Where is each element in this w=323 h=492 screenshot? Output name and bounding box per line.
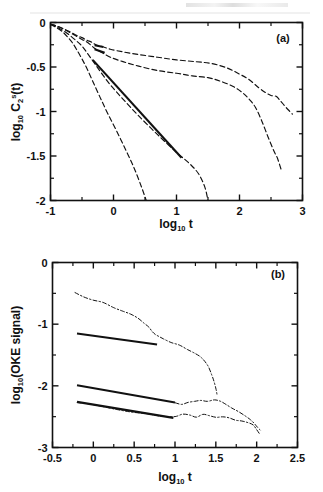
y-tick-label: -2 [38, 380, 48, 392]
y-tick-label: -0.5 [27, 61, 46, 73]
panel-a-data-curves [51, 24, 293, 200]
panel-a-y-tick-labels: -2-1.5-1-0.50 [27, 17, 46, 207]
y-tick-label: -1.5 [27, 150, 46, 162]
y-tick-label: -1 [38, 318, 48, 330]
data-curve-oke-data-middle-branch [175, 400, 260, 430]
x-tick-label: 1 [172, 452, 178, 464]
panel-a: -10123 -2-1.5-1-0.50 (a) log10 t log10 C… [0, 0, 323, 240]
panel-a-ylab-sub: 10 [16, 115, 25, 123]
x-tick-label: 1 [173, 205, 179, 217]
panel-b-tick-marks [53, 263, 298, 448]
panel-a-tick-marks [51, 23, 303, 201]
x-tick-label: -1 [46, 205, 56, 217]
y-tick-label: -1 [36, 106, 46, 118]
panel-b-xlab-sub: 10 [176, 477, 184, 486]
panel-a-axes-frame [51, 23, 303, 201]
panel-a-ylab-tail2: (t) [9, 83, 23, 95]
fit-line-curve-1-slowest [95, 45, 104, 47]
x-tick-label: 0 [90, 452, 96, 464]
panel-b-y-axis-label: log10(OKE signal) [9, 306, 25, 404]
panel-b-ylab-sub: 10 [16, 378, 25, 386]
x-tick-label: 0.5 [127, 452, 142, 464]
fit-line-oke-data-upper [77, 333, 157, 344]
fit-line-oke-data-middle-branch [77, 385, 175, 402]
panel-b-ylab-tail: (OKE signal) [9, 306, 23, 378]
panel-b-plot: -0.500.511.522.5 -3-2-10 (b) log10 t log… [0, 240, 323, 492]
x-tick-label: 2.5 [290, 452, 305, 464]
panel-b-ylab-main: log [9, 386, 23, 404]
fit-line-curve-2 [95, 49, 105, 53]
y-tick-label: 0 [39, 17, 45, 29]
panel-a-ylab-tail: C [9, 103, 23, 115]
fit-line-curve-3 [93, 60, 182, 158]
panel-b-axes-frame [53, 263, 298, 448]
x-tick-label: 3 [299, 205, 305, 217]
x-tick-label: 1.5 [208, 452, 223, 464]
y-tick-label: 0 [41, 257, 47, 269]
data-curve-curve-3 [51, 24, 209, 200]
panel-a-xlab-tail: t [186, 217, 193, 231]
panel-b-y-tick-labels: -3-2-10 [38, 257, 48, 454]
panel-b-xlab-tail: t [185, 470, 192, 484]
figure-canvas: -10123 -2-1.5-1-0.50 (a) log10 t log10 C… [0, 0, 323, 492]
panel-a-label: (a) [276, 32, 290, 44]
panel-b-x-tick-labels: -0.500.511.522.5 [43, 452, 305, 464]
panel-a-x-axis-label: log10 t [159, 217, 193, 233]
panel-a-xlab-sub: 10 [177, 224, 185, 233]
x-tick-label: 2 [254, 452, 260, 464]
panel-b-x-axis-label: log10 t [158, 470, 192, 486]
x-tick-label: 0 [110, 205, 116, 217]
y-tick-label: -2 [36, 195, 46, 207]
fit-line-oke-data-lower [77, 402, 173, 418]
panel-b-label: (b) [271, 268, 285, 280]
panel-b-data-curves [75, 293, 260, 434]
panel-a-xlab-main: log [159, 217, 177, 231]
panel-a-ylab-main: log [9, 123, 23, 141]
panel-b-xlab-main: log [158, 470, 176, 484]
panel-a-y-axis-label: log10 C2s(t) [9, 83, 25, 142]
x-tick-label: 2 [236, 205, 242, 217]
panel-a-x-tick-labels: -10123 [46, 205, 306, 217]
panel-b: -0.500.511.522.5 -3-2-10 (b) log10 t log… [0, 240, 323, 492]
y-tick-label: -3 [38, 442, 48, 454]
panel-a-plot: -10123 -2-1.5-1-0.50 (a) log10 t log10 C… [0, 0, 323, 240]
data-curve-curve-2 [51, 24, 282, 169]
